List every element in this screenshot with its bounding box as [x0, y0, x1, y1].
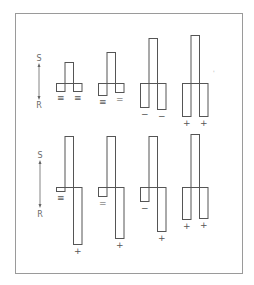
glyph-panel: ++ [183, 135, 209, 231]
left-sign: ≡ [57, 93, 65, 103]
stem-bar [107, 53, 116, 84]
left-bar [183, 188, 192, 220]
right-sign: + [200, 220, 208, 230]
right-bar [74, 188, 83, 245]
arrow-up-icon [38, 63, 41, 67]
axis-label-r: R [36, 101, 42, 110]
right-sign: + [200, 118, 208, 128]
left-bar [99, 84, 108, 96]
arrow-down-icon [38, 96, 41, 100]
axis-top-row: S R [36, 54, 42, 110]
top-row: ≡≡≡=−−++ [57, 36, 209, 128]
axis-label-r: R [37, 210, 43, 219]
left-sign: = [99, 198, 107, 208]
left-bar [57, 84, 66, 92]
left-sign: + [183, 118, 191, 128]
left-bar [57, 188, 66, 192]
arrow-up-icon [39, 160, 42, 164]
axis-bottom-row: S R [37, 151, 43, 219]
stem-bar [65, 137, 74, 188]
left-bar [183, 84, 192, 117]
glyph-panel: −+ [141, 137, 167, 243]
glyph-panel: ++ [183, 36, 209, 128]
right-sign: + [116, 240, 124, 250]
glyph-panel: ≡= [99, 53, 125, 107]
bottom-row: ≡+=+−+++ [57, 135, 209, 256]
left-bar [141, 188, 150, 202]
glyph-panel: ≡≡ [57, 63, 83, 103]
left-bar [99, 188, 108, 197]
stray-mark: ' [213, 69, 215, 76]
right-bar [158, 188, 167, 232]
left-sign: + [183, 221, 191, 231]
right-sign: − [158, 111, 166, 121]
right-bar [200, 188, 209, 219]
right-sign: + [158, 233, 166, 243]
right-sign: + [74, 246, 82, 256]
right-sign: = [116, 94, 124, 104]
right-bar [158, 84, 167, 110]
left-sign: ≡ [57, 193, 65, 203]
axis-label-s: S [36, 54, 41, 63]
right-sign: ≡ [74, 93, 82, 103]
left-sign: − [141, 203, 149, 213]
glyph-panel: −− [141, 39, 167, 121]
axis-label-s: S [37, 151, 42, 160]
left-sign: ≡ [99, 97, 107, 107]
panels: ≡≡≡=−−++≡+=+−+++ [57, 36, 209, 256]
stem-bar [65, 63, 74, 84]
stem-bar [107, 137, 116, 188]
stem-bar [191, 36, 200, 84]
glyph-panel: =+ [99, 137, 125, 250]
left-bar [141, 84, 150, 108]
stem-bar [149, 137, 158, 188]
right-bar [116, 84, 125, 93]
diagram: S R S R ' ≡≡≡=−−++≡+=+−+++ [0, 0, 254, 285]
arrow-down-icon [39, 204, 42, 208]
figure-frame [16, 14, 243, 274]
stem-bar [149, 39, 158, 84]
left-sign: − [141, 109, 149, 119]
right-bar [74, 84, 83, 92]
right-bar [200, 84, 209, 117]
glyph-panel: ≡+ [57, 137, 83, 256]
stem-bar [191, 135, 200, 188]
right-bar [116, 188, 125, 239]
